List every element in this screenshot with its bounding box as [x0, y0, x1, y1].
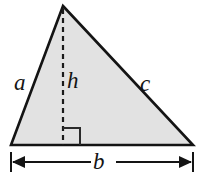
arrowhead-left-icon: [12, 156, 25, 168]
arrowhead-right-icon: [179, 156, 192, 168]
triangle-figure: a h c b: [0, 0, 215, 174]
label-side-c: c: [140, 72, 150, 95]
label-base-b: b: [93, 150, 105, 173]
label-side-a: a: [14, 71, 26, 94]
triangle-diagram-svg: [0, 0, 215, 174]
triangle-shape: [11, 6, 193, 145]
label-height-h: h: [67, 69, 79, 92]
